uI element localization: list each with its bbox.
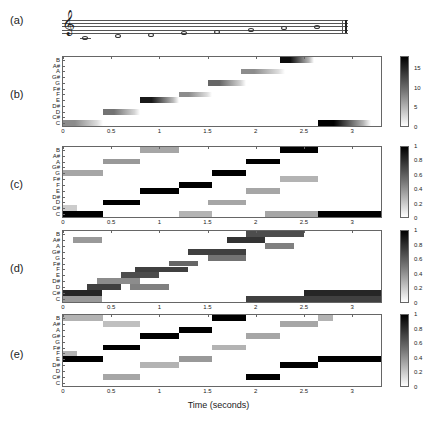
heatmap-cell	[280, 147, 319, 153]
x-tick-label: 1.5	[203, 128, 211, 134]
staff-barline-thin	[342, 20, 343, 33]
x-tick	[63, 314, 64, 317]
colorbar-tick-label: 0	[414, 124, 417, 130]
heatmap-cell	[63, 205, 77, 211]
y-tick	[62, 252, 65, 253]
pitch-label: D#	[46, 194, 60, 200]
pitch-label: C	[46, 296, 60, 302]
x-tick	[304, 56, 305, 59]
panel-label: (a)	[10, 14, 23, 26]
heatmap-cell	[246, 159, 280, 165]
pitch-label: A	[46, 68, 60, 74]
note-head	[214, 30, 220, 34]
heatmap-cell	[265, 243, 294, 249]
y-tick	[62, 208, 65, 209]
x-tick	[304, 230, 305, 233]
pitch-label: F	[46, 182, 60, 188]
heatmap-cell	[103, 159, 140, 165]
pitch-label: G	[46, 170, 60, 176]
y-tick	[62, 100, 65, 101]
pitch-label: D#	[46, 362, 60, 368]
heatmap-cell	[103, 321, 140, 327]
y-tick	[62, 150, 65, 151]
x-tick-label: 2.5	[300, 128, 308, 134]
y-tick	[62, 383, 65, 384]
x-tick-label: 0.5	[107, 219, 115, 225]
y-tick	[62, 336, 65, 337]
pitch-label: D	[46, 109, 60, 115]
heatmap-cell	[73, 237, 102, 243]
x-tick-label: 2.5	[300, 304, 308, 310]
pitch-label: G#	[46, 164, 60, 170]
pitch-label: A#	[46, 153, 60, 159]
x-tick-label: 1	[158, 304, 161, 310]
y-tick	[62, 371, 65, 372]
heatmap-cell	[208, 200, 247, 206]
y-tick	[62, 117, 65, 118]
colorbar-tick-label: 1	[414, 227, 417, 233]
y-tick	[62, 281, 65, 282]
x-tick	[256, 56, 257, 59]
pitch-label: D#	[46, 103, 60, 109]
y-tick	[62, 106, 65, 107]
heatmap-cell	[103, 345, 140, 351]
y-tick	[62, 258, 65, 259]
colorbar-tick-label: 0.6	[414, 256, 422, 262]
x-tick-label: 2	[254, 219, 257, 225]
y-tick	[62, 214, 65, 215]
heatmap-cell	[318, 356, 381, 362]
y-tick	[62, 365, 65, 366]
pitch-label: C#	[46, 290, 60, 296]
pitch-label: C	[46, 120, 60, 126]
panel-label: (b)	[10, 88, 23, 100]
heatmap-cell	[227, 237, 266, 243]
heatmap-cell	[63, 315, 103, 321]
staff-line	[62, 20, 348, 21]
panel-label: (d)	[10, 262, 23, 274]
x-tick-label: 1.5	[203, 304, 211, 310]
heatmap-cell	[318, 211, 381, 217]
heatmap-cell	[63, 211, 103, 217]
y-tick	[62, 269, 65, 270]
heatmap-cell	[208, 80, 247, 86]
x-tick	[256, 146, 257, 149]
staff-line	[62, 33, 348, 34]
heatmap-cell	[103, 109, 140, 115]
x-tick	[111, 56, 112, 59]
colorbar-tick-label: 1	[414, 143, 417, 149]
heatmap-cell	[280, 321, 319, 327]
heatmap-cell	[63, 351, 77, 357]
note-head	[115, 34, 121, 38]
x-tick	[256, 230, 257, 233]
x-tick-label: 0	[61, 219, 64, 225]
x-tick	[304, 314, 305, 317]
heatmap-cell	[103, 374, 140, 380]
y-tick	[62, 83, 65, 84]
y-tick	[62, 94, 65, 95]
pitch-label: F#	[46, 86, 60, 92]
pitch-label: F	[46, 91, 60, 97]
staff-line	[62, 30, 348, 31]
heatmap-cell	[87, 284, 121, 290]
y-tick	[62, 162, 65, 163]
heatmap-cell	[63, 296, 102, 302]
heatmap-cell	[179, 211, 213, 217]
pitch-label: B	[46, 57, 60, 63]
colorbar-tick-label: 0.2	[414, 369, 422, 375]
y-tick	[62, 342, 65, 343]
y-tick	[62, 293, 65, 294]
heatmap-cell	[135, 267, 188, 273]
y-tick	[62, 234, 65, 235]
x-tick	[352, 146, 353, 149]
pitch-label: G	[46, 80, 60, 86]
pitch-label: C	[46, 380, 60, 386]
heatmap-cell	[246, 296, 381, 302]
heatmap-cell	[63, 170, 103, 176]
pitch-label: C#	[46, 374, 60, 380]
pitch-label: F#	[46, 176, 60, 182]
x-tick-label: 1.5	[203, 219, 211, 225]
pitch-label: F	[46, 266, 60, 272]
colorbar-tick-label: 0.6	[414, 172, 422, 178]
colorbar-tick-label: 0.6	[414, 340, 422, 346]
x-tick-label: 0.5	[107, 388, 115, 394]
